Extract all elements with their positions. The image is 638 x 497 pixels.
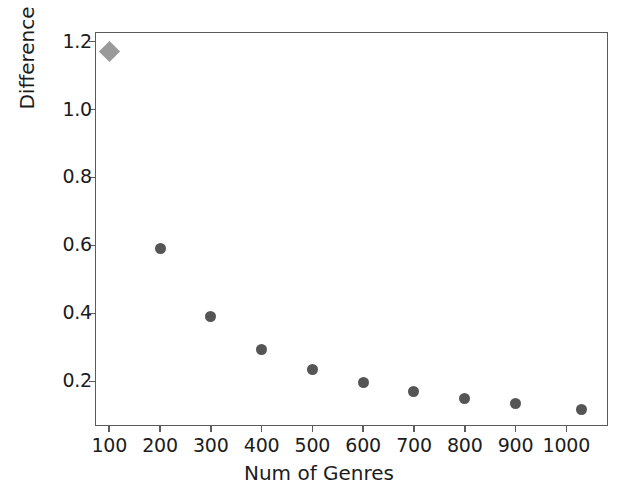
y-tick-label: 0.8 <box>62 167 92 186</box>
x-tick-mark <box>159 426 161 432</box>
x-tick-mark <box>108 426 110 432</box>
scatter-plot-figure: 0.20.40.60.81.01.21002003004005006007008… <box>0 0 638 497</box>
x-tick-mark <box>210 426 212 432</box>
x-tick-mark <box>515 426 517 432</box>
y-tick-label: 0.4 <box>62 303 92 322</box>
y-axis-label: Difference <box>14 0 40 255</box>
y-tick-label: 0.2 <box>62 371 92 390</box>
y-tick-label: 1.0 <box>62 100 92 119</box>
x-axis-label: Num of Genres <box>0 462 638 484</box>
plot-area-frame <box>95 32 608 426</box>
x-tick-mark <box>464 426 466 432</box>
y-tick-label: 0.6 <box>62 235 92 254</box>
x-tick-mark <box>413 426 415 432</box>
x-tick-mark <box>261 426 263 432</box>
x-tick-mark <box>566 426 568 432</box>
x-tick-mark <box>362 426 364 432</box>
x-tick-label: 1000 <box>526 436 606 455</box>
y-tick-label: 1.2 <box>62 32 92 51</box>
x-tick-mark <box>312 426 314 432</box>
